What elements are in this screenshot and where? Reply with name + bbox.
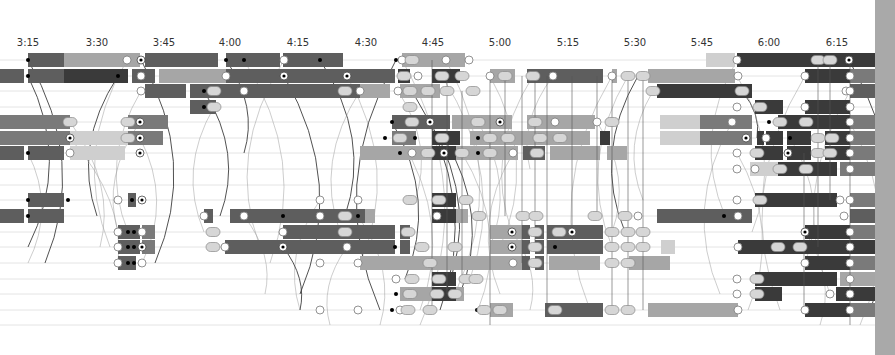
event-pill-icon[interactable]: [498, 72, 512, 81]
event-dot-icon[interactable]: [126, 245, 130, 249]
event-ring-icon[interactable]: [221, 243, 229, 251]
task-bar[interactable]: [0, 115, 70, 129]
event-pill-icon[interactable]: [771, 243, 785, 252]
event-ring-icon[interactable]: [733, 149, 741, 157]
event-dot-icon[interactable]: [26, 151, 30, 155]
event-pill-icon[interactable]: [799, 118, 813, 127]
event-pill-icon[interactable]: [588, 212, 602, 221]
event-pill-icon[interactable]: [516, 212, 530, 221]
event-pill-icon[interactable]: [403, 87, 417, 96]
event-dot-icon[interactable]: [553, 245, 557, 249]
event-pill-icon[interactable]: [415, 243, 429, 252]
task-bar[interactable]: [700, 115, 752, 129]
event-ring-icon[interactable]: [549, 72, 557, 80]
task-bar[interactable]: [805, 225, 850, 239]
task-bar[interactable]: [840, 162, 875, 176]
task-bar[interactable]: [28, 69, 64, 83]
event-ring-icon[interactable]: [123, 56, 131, 64]
task-bar[interactable]: [28, 193, 64, 207]
task-bar[interactable]: [661, 240, 675, 254]
event-pill-icon[interactable]: [530, 149, 544, 158]
task-bar[interactable]: [840, 272, 875, 286]
event-pill-icon[interactable]: [432, 275, 446, 284]
task-bar[interactable]: [145, 84, 186, 98]
task-bar[interactable]: [225, 240, 283, 254]
event-dot-icon[interactable]: [393, 245, 397, 249]
event-ring-icon[interactable]: [240, 87, 248, 95]
event-ring-icon[interactable]: [846, 134, 854, 142]
event-pill-icon[interactable]: [469, 275, 483, 284]
event-ring-icon[interactable]: [486, 72, 494, 80]
event-ring-icon[interactable]: [801, 72, 809, 80]
task-bar[interactable]: [836, 287, 875, 301]
event-pill-icon[interactable]: [825, 134, 839, 143]
event-dot-icon[interactable]: [242, 58, 246, 62]
event-dot-icon[interactable]: [26, 198, 30, 202]
task-bar[interactable]: [283, 240, 395, 254]
task-bar[interactable]: [850, 209, 875, 223]
event-ring-icon[interactable]: [634, 212, 642, 220]
event-ring-icon[interactable]: [509, 149, 517, 157]
event-ring-icon[interactable]: [392, 275, 400, 283]
task-bar[interactable]: [28, 209, 64, 223]
task-bar[interactable]: [490, 240, 522, 254]
task-bar[interactable]: [70, 146, 125, 160]
event-pill-icon[interactable]: [636, 228, 650, 237]
task-bar[interactable]: [765, 146, 783, 160]
event-ring-icon[interactable]: [414, 72, 422, 80]
event-dot-icon[interactable]: [413, 136, 417, 140]
task-bar[interactable]: [392, 115, 450, 129]
event-ring-icon[interactable]: [846, 196, 854, 204]
event-pill-icon[interactable]: [750, 290, 764, 299]
event-ring-icon[interactable]: [316, 196, 324, 204]
event-ring-icon[interactable]: [846, 290, 854, 298]
event-pill-icon[interactable]: [605, 118, 619, 127]
event-pill-icon[interactable]: [605, 306, 619, 315]
event-ring-icon[interactable]: [316, 212, 324, 220]
event-pill-icon[interactable]: [405, 56, 419, 65]
event-pill-icon[interactable]: [448, 243, 462, 252]
event-ring-icon[interactable]: [138, 228, 146, 236]
event-dot-icon[interactable]: [398, 151, 402, 155]
event-ring-icon[interactable]: [733, 103, 741, 111]
event-pill-icon[interactable]: [533, 134, 547, 143]
event-ring-icon[interactable]: [826, 290, 834, 298]
task-bar[interactable]: [600, 131, 610, 145]
event-pill-icon[interactable]: [529, 212, 543, 221]
task-bar[interactable]: [549, 256, 600, 270]
event-pill-icon[interactable]: [401, 306, 415, 315]
event-pill-icon[interactable]: [548, 306, 562, 315]
event-ring-icon[interactable]: [551, 118, 559, 126]
event-pill-icon[interactable]: [207, 103, 221, 112]
event-ring-icon[interactable]: [465, 56, 473, 64]
event-pill-icon[interactable]: [471, 118, 485, 127]
event-ring-icon[interactable]: [846, 243, 854, 251]
event-dot-icon[interactable]: [767, 120, 771, 124]
event-ring-icon[interactable]: [733, 56, 741, 64]
event-ring-icon[interactable]: [433, 212, 441, 220]
event-pill-icon[interactable]: [423, 259, 437, 268]
event-pill-icon[interactable]: [483, 149, 497, 158]
event-pill-icon[interactable]: [397, 72, 411, 81]
event-ring-icon[interactable]: [734, 243, 742, 251]
event-dot-icon[interactable]: [394, 58, 398, 62]
event-ring-icon[interactable]: [240, 212, 248, 220]
event-dot-icon[interactable]: [132, 230, 136, 234]
event-ring-icon[interactable]: [354, 196, 362, 204]
event-pill-icon[interactable]: [773, 165, 787, 174]
task-bar[interactable]: [360, 256, 522, 270]
event-dot-icon[interactable]: [224, 58, 228, 62]
event-dot-icon[interactable]: [390, 120, 394, 124]
event-ring-icon[interactable]: [733, 196, 741, 204]
event-pill-icon[interactable]: [773, 118, 787, 127]
event-ring-icon[interactable]: [801, 259, 809, 267]
task-bar[interactable]: [28, 146, 64, 160]
event-ring-icon[interactable]: [728, 118, 736, 126]
task-bar[interactable]: [805, 100, 850, 114]
event-ring-icon[interactable]: [840, 212, 848, 220]
event-ring-icon[interactable]: [593, 118, 601, 126]
event-ring-icon[interactable]: [114, 243, 122, 251]
vertical-scrollbar[interactable]: [875, 0, 895, 355]
task-bar[interactable]: [159, 69, 226, 83]
event-ring-icon[interactable]: [733, 275, 741, 283]
